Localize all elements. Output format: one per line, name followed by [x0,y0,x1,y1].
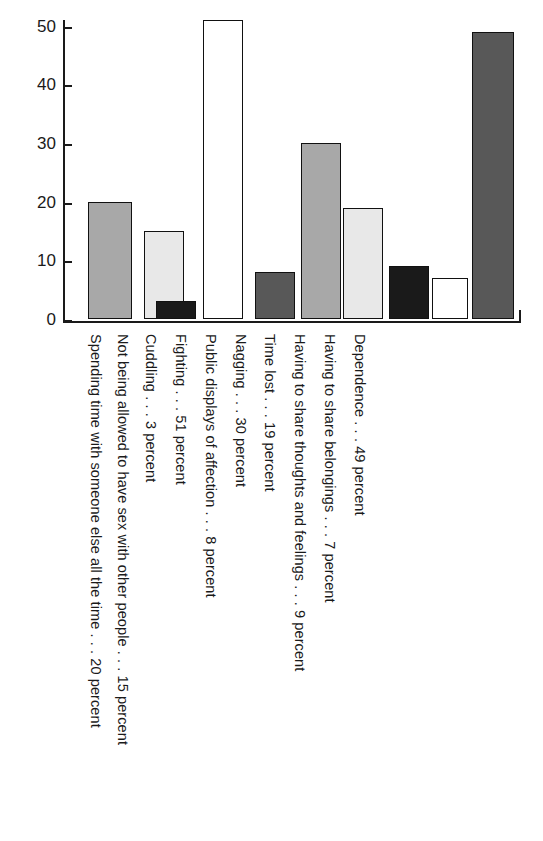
bar [432,278,468,319]
bar [389,266,429,319]
bars-layer [0,0,543,321]
category-label: Cuddling . . . 3 percent [144,334,159,482]
plot-area: 01020304050 [0,0,543,330]
category-label: Public displays of affection . . . 8 per… [204,334,219,598]
category-label: Having to share thoughts and feelings . … [293,334,308,671]
category-label: Dependence . . . 49 percent [353,334,368,516]
category-label: Spending time with someone else all the … [89,334,104,728]
bar [88,202,132,319]
category-label: Nagging . . . 30 percent [234,334,249,487]
bar [301,143,341,319]
bar [472,32,514,319]
category-labels: Spending time with someone else all the … [0,330,543,841]
bar-chart: 01020304050 Spending time with someone e… [0,0,543,841]
category-label: Fighting . . . 51 percent [174,334,189,485]
bar [156,301,196,319]
bar [255,272,295,319]
category-label: Having to share belongings . . . 7 perce… [323,334,338,603]
x-axis-line [63,321,521,323]
bar [343,208,383,319]
category-label: Time lost . . . 19 percent [263,334,278,492]
category-label: Not being allowed to have sex with other… [116,334,131,745]
bar [203,20,243,319]
